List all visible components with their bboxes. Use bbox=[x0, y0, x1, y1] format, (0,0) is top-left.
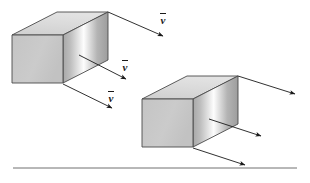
vector-symbol-3: v bbox=[108, 93, 114, 104]
box-1-front-face bbox=[12, 35, 63, 83]
vector-arrow-4 bbox=[238, 76, 295, 94]
vector-symbol-2: v bbox=[122, 62, 128, 73]
box-1 bbox=[12, 12, 108, 83]
vector-label-2: v bbox=[122, 60, 128, 73]
box-2-front-face bbox=[142, 99, 193, 147]
vector-label-3: v bbox=[108, 91, 114, 104]
physics-figure: v v v bbox=[0, 0, 310, 183]
box-2 bbox=[142, 76, 238, 147]
figure-canvas bbox=[0, 0, 310, 183]
vector-symbol-1: v bbox=[160, 15, 166, 26]
vector-arrow-6 bbox=[193, 148, 245, 165]
vector-arrow-3 bbox=[63, 84, 112, 108]
vector-label-1: v bbox=[160, 13, 166, 26]
vector-arrow-1 bbox=[108, 12, 163, 36]
